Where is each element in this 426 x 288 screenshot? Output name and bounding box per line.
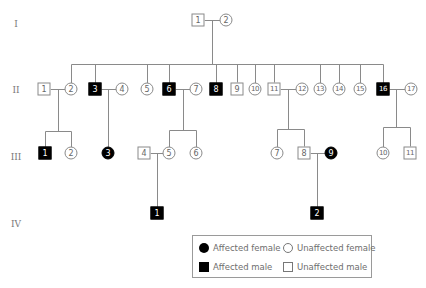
- affected-male-ii-6: 6: [163, 83, 176, 96]
- unaffected-male-iii-8: 8: [298, 147, 311, 160]
- affected-male-iv-2: 2: [311, 207, 324, 220]
- unaffected-female-ii-5: 5: [141, 83, 154, 96]
- unaffected-female-iii-10: 10: [377, 147, 390, 160]
- open-circle-icon: [283, 243, 293, 253]
- affected-male-iii-1: 1: [39, 147, 52, 160]
- generation-label: III: [11, 152, 22, 162]
- legend-item-affected-female: Affected female: [199, 243, 281, 253]
- affected-male-iv-1: 1: [151, 207, 164, 220]
- unaffected-female-ii-15: 15: [354, 83, 367, 96]
- unaffected-female-iii-7: 7: [271, 147, 284, 160]
- filled-square-icon: [199, 262, 209, 272]
- affected-male-ii-8: 8: [210, 83, 223, 96]
- unaffected-female-ii-2: 2: [65, 83, 78, 96]
- unaffected-female-ii-10: 10: [249, 83, 262, 96]
- legend-label: Affected female: [213, 243, 281, 253]
- unaffected-male-iii-4: 4: [138, 147, 151, 160]
- unaffected-male-ii-1: 1: [38, 83, 51, 96]
- unaffected-female-ii-7: 7: [190, 83, 203, 96]
- unaffected-female-ii-13: 13: [314, 83, 327, 96]
- unaffected-female-ii-4: 4: [116, 83, 129, 96]
- unaffected-female-iii-5: 5: [163, 147, 176, 160]
- legend-label: Affected male: [213, 262, 272, 272]
- affected-female-iii-3: 3: [102, 147, 115, 160]
- affected-male-ii-3: 3: [89, 83, 102, 96]
- unaffected-female-iii-2: 2: [65, 147, 78, 160]
- legend-item-affected-male: Affected male: [199, 262, 272, 272]
- generation-label: IV: [11, 219, 21, 229]
- unaffected-female-ii-12: 12: [296, 83, 309, 96]
- filled-circle-icon: [199, 243, 209, 253]
- unaffected-female-i-2: 2: [220, 14, 233, 27]
- legend: Affected female Unaffected female Affect…: [192, 235, 372, 278]
- legend-label: Unaffected female: [297, 243, 376, 253]
- unaffected-male-iii-11: 11: [404, 147, 417, 160]
- unaffected-male-ii-11: 11: [268, 83, 281, 96]
- legend-label: Unaffected male: [297, 262, 367, 272]
- legend-item-unaffected-female: Unaffected female: [283, 243, 376, 253]
- open-square-icon: [283, 262, 293, 272]
- unaffected-female-iii-6: 6: [190, 147, 203, 160]
- affected-male-ii-16: 16: [377, 83, 390, 96]
- unaffected-male-ii-9: 9: [231, 83, 244, 96]
- generation-label: I: [14, 19, 18, 29]
- generation-label: II: [12, 85, 19, 95]
- unaffected-male-i-1: 1: [192, 14, 205, 27]
- unaffected-female-ii-14: 14: [333, 83, 346, 96]
- pedigree-diagram: IIIIIIIV 1212345678910111213141516171234…: [0, 0, 426, 288]
- affected-female-iii-9: 9: [325, 147, 338, 160]
- legend-item-unaffected-male: Unaffected male: [283, 262, 367, 272]
- unaffected-female-ii-17: 17: [405, 83, 418, 96]
